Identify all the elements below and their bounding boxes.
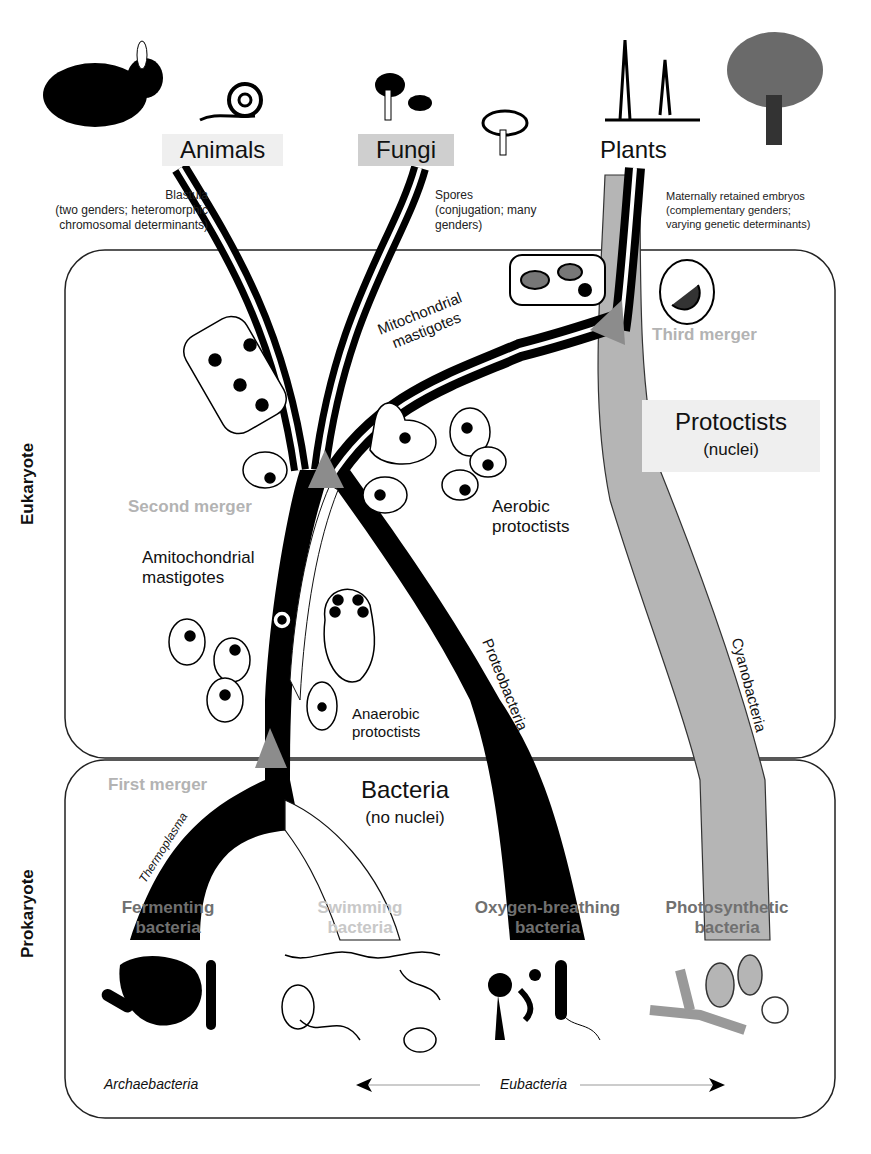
photosynthetic-bacteria-label: Photosyntheticbacteria: [652, 898, 802, 938]
tree-illustration: [727, 32, 823, 145]
aerobic-protoctist-cells: [363, 403, 506, 513]
archaebacteria-label: Archaebacteria: [104, 1076, 198, 1092]
photosynthetic-bacteria-illustration: [650, 955, 788, 1030]
plants-note: Maternally retained embryos(complementar…: [666, 189, 810, 231]
protoctists-label: Protoctists (nuclei): [642, 400, 820, 472]
oxygen-breathing-bacteria-illustration: [488, 960, 600, 1040]
eubacteria-label: Eubacteria: [500, 1076, 567, 1092]
symbiosis-diagram-graphics: [0, 0, 871, 1154]
first-merger-label: First merger: [108, 775, 207, 795]
aerobic-protoctists-label: Aerobicprotoctists: [492, 497, 569, 537]
bacteria-label: Bacteria (no nuclei): [355, 776, 455, 832]
fermenting-bacteria-label: Fermentingbacteria: [108, 898, 228, 938]
animals-note: Blastula(two genders; heteromorphicchrom…: [30, 188, 208, 233]
snail-illustration: [200, 84, 261, 120]
anaerobic-protoctists-label: Anaerobicprotoctists: [352, 705, 420, 741]
kingdom-animals: Animals: [162, 134, 283, 166]
fermenting-bacteria-illustration: [99, 956, 216, 1030]
amitochondrial-mastigotes-label: Amitochondrialmastigotes: [142, 548, 254, 588]
rabbit-illustration: [43, 41, 163, 127]
fungi-note: Spores(conjugation; manygenders): [435, 188, 536, 233]
domain-prokaryote: Prokaryote: [18, 869, 38, 958]
second-merger-label: Second merger: [128, 497, 252, 517]
third-merger-label: Third merger: [652, 325, 757, 345]
domain-eukaryote: Eukaryote: [18, 443, 38, 525]
plant-illustrations: [605, 40, 700, 120]
kingdom-plants: Plants: [600, 134, 667, 166]
swimming-bacteria-label: Swimmingbacteria: [300, 898, 420, 938]
kingdom-fungi: Fungi: [358, 134, 454, 166]
swimming-bacteria-illustration: [282, 952, 440, 1052]
oxygen-breathing-bacteria-label: Oxygen-breathingbacteria: [455, 898, 640, 938]
